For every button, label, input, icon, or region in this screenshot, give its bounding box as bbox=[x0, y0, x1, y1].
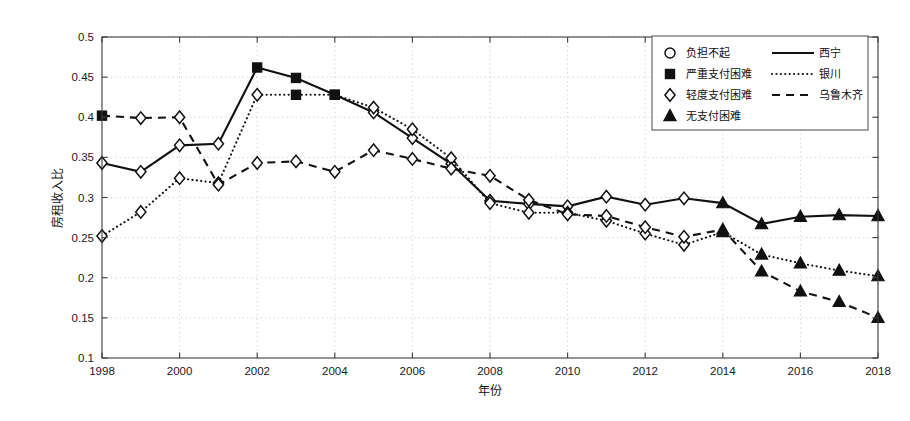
line-chart-canvas: 0.10.150.20.250.30.350.40.450.5199820002… bbox=[0, 0, 910, 421]
x-axis-title: 年份 bbox=[478, 384, 502, 398]
xtick-label-0: 1998 bbox=[89, 365, 115, 377]
marker-diamond-open-0-15 bbox=[679, 192, 689, 204]
legend-marker-label-2: 轻度支付困难 bbox=[686, 88, 752, 102]
ytick-label-3: 0.25 bbox=[72, 232, 94, 244]
xtick-label-10: 2018 bbox=[865, 365, 891, 377]
xtick-label-4: 2006 bbox=[400, 365, 426, 377]
marker-diamond-open-1-11 bbox=[524, 207, 534, 219]
xtick-label-7: 2012 bbox=[632, 365, 658, 377]
marker-diamond-open-2-15 bbox=[679, 231, 689, 243]
marker-diamond-open-0-14 bbox=[640, 199, 650, 211]
marker-diamond-open-2-8 bbox=[407, 153, 417, 165]
ytick-label-2: 0.2 bbox=[78, 272, 94, 284]
marker-diamond-open-2-10 bbox=[485, 170, 495, 182]
marker-triangle-filled-1-18 bbox=[794, 257, 806, 268]
marker-triangle-filled-2-17 bbox=[756, 265, 768, 276]
marker-triangle-filled-2-18 bbox=[794, 285, 806, 296]
marker-diamond-open-2-7 bbox=[369, 144, 379, 156]
marker-diamond-open-0-2 bbox=[175, 139, 185, 151]
legend-line-label-1: 银川 bbox=[819, 67, 841, 81]
xtick-label-1: 2000 bbox=[167, 365, 193, 377]
xtick-label-2: 2002 bbox=[244, 365, 270, 377]
marker-diamond-open-0-1 bbox=[136, 166, 146, 178]
chart-figure: 0.10.150.20.250.30.350.40.450.5199820002… bbox=[0, 0, 910, 421]
xtick-label-6: 2010 bbox=[555, 365, 581, 377]
ytick-label-7: 0.45 bbox=[72, 71, 94, 83]
marker-diamond-open-1-4 bbox=[252, 89, 262, 101]
marker-triangle-filled-2-16 bbox=[717, 223, 729, 234]
legend-line-label-2: 乌鲁木齐 bbox=[819, 88, 863, 102]
ytick-label-0: 0.1 bbox=[78, 352, 94, 364]
marker-diamond-open-1-8 bbox=[407, 123, 417, 135]
legend-line-label-0: 西宁 bbox=[819, 46, 841, 60]
legend-marker-label-3: 无支付困难 bbox=[686, 110, 741, 123]
xtick-label-5: 2008 bbox=[477, 365, 503, 377]
marker-diamond-open-0-3 bbox=[213, 138, 223, 150]
xtick-label-8: 2014 bbox=[710, 365, 736, 377]
marker-square-filled-0-4 bbox=[253, 63, 262, 72]
marker-square-filled-1-5 bbox=[291, 90, 300, 99]
xtick-label-9: 2016 bbox=[788, 365, 814, 377]
y-axis-title: 房租收入比 bbox=[50, 168, 65, 228]
marker-diamond-open-0-13 bbox=[601, 190, 611, 202]
ytick-label-4: 0.3 bbox=[78, 192, 94, 204]
marker-triangle-filled-2-19 bbox=[833, 295, 845, 306]
marker-diamond-open-2-2 bbox=[175, 111, 185, 123]
xtick-label-3: 2004 bbox=[322, 365, 348, 377]
marker-diamond-open-2-5 bbox=[291, 155, 301, 167]
marker-diamond-open-2-6 bbox=[330, 166, 340, 178]
marker-square-filled-1-6 bbox=[330, 90, 339, 99]
ytick-label-8: 0.5 bbox=[78, 31, 94, 43]
marker-diamond-open-1-2 bbox=[175, 172, 185, 184]
marker-diamond-open-2-1 bbox=[136, 112, 146, 124]
marker-diamond-open-2-4 bbox=[252, 157, 262, 169]
legend: 负担不起严重支付困难轻度支付困难无支付困难西宁银川乌鲁木齐 bbox=[652, 36, 868, 130]
ytick-label-1: 0.15 bbox=[72, 312, 94, 324]
marker-square-filled-0-5 bbox=[291, 73, 300, 82]
legend-marker-label-0: 负担不起 bbox=[686, 46, 730, 60]
ytick-label-6: 0.4 bbox=[78, 111, 95, 123]
marker-triangle-filled-1-17 bbox=[756, 248, 768, 259]
ytick-label-5: 0.35 bbox=[72, 151, 94, 163]
marker-diamond-open-1-1 bbox=[136, 206, 146, 218]
marker-square-filled-legend-m-1 bbox=[665, 69, 674, 78]
marker-circle-open-legend-m-0 bbox=[665, 48, 675, 58]
legend-marker-label-1: 严重支付困难 bbox=[686, 67, 752, 81]
